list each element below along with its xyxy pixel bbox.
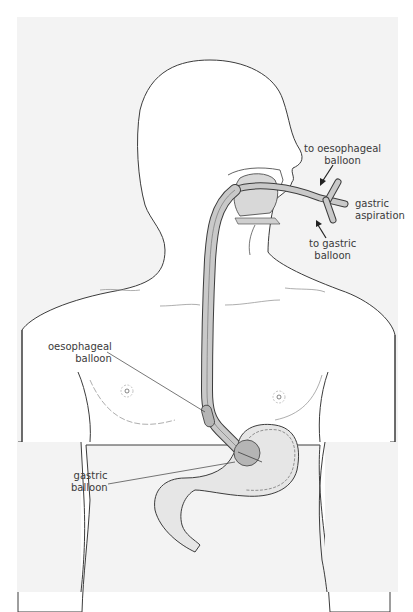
arrow-to-gastric-icon (316, 220, 326, 238)
label-oesophageal-balloon: oesophageal balloon (48, 341, 112, 365)
label-to-oesophageal-balloon: to oesophageal balloon (304, 143, 381, 167)
label-gastric-balloon: gastric balloon (71, 470, 108, 494)
gastric-balloon (234, 440, 260, 466)
label-to-gastric-balloon: to gastric balloon (309, 238, 356, 262)
label-gastric-aspiration: gastric aspiration (355, 198, 405, 222)
anatomy-illustration (0, 0, 413, 612)
arrow-to-oesophageal-icon (320, 165, 333, 186)
